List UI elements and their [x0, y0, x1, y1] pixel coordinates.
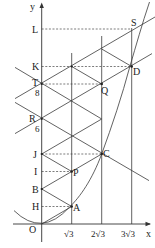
label-D: D [133, 66, 140, 77]
label-T: T [32, 77, 38, 88]
label-R-sub: 6 [35, 124, 40, 134]
points [41, 65, 133, 208]
label-R: R [29, 113, 36, 124]
coordinate-diagram: y x O √3 2√3 3√3 H B I J R 6 T 8 K L A P… [0, 0, 155, 248]
y-axis-arrow-icon [40, 3, 44, 9]
origin-label: O [29, 224, 36, 235]
line-top-D [102, 49, 132, 67]
label-A: A [73, 202, 81, 213]
label-S: S [131, 17, 137, 28]
x-tick-3sqrt3: 3√3 [121, 229, 135, 239]
line-B-A [42, 189, 72, 207]
label-C: C [103, 148, 110, 159]
label-T-sub: 8 [35, 88, 40, 98]
label-B: B [32, 184, 39, 195]
y-axis-label: y [30, 1, 35, 12]
label-Q: Q [101, 85, 109, 96]
label-K: K [32, 61, 40, 72]
x-axis-arrow-icon [146, 222, 152, 226]
line-T-down [15, 67, 102, 119]
x-tick-2sqrt3: 2√3 [91, 229, 105, 239]
line-K-Q [72, 67, 102, 85]
label-P: P [73, 167, 79, 178]
line-J-P [42, 154, 72, 172]
line-O-A [42, 207, 72, 225]
label-J: J [33, 149, 37, 160]
label-H: H [32, 201, 39, 212]
label-L: L [32, 24, 38, 35]
label-I: I [34, 166, 37, 177]
x-tick-sqrt3: √3 [64, 229, 74, 239]
x-axis-label: x [146, 228, 151, 239]
